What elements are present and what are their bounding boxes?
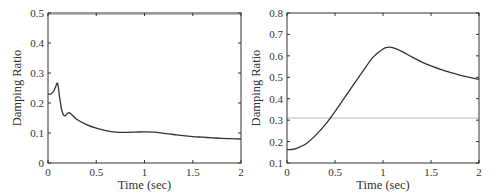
y-axis-label: Damping Ratio: [249, 50, 263, 127]
x-tick-label: 1: [380, 166, 386, 178]
x-tick-label: 0: [45, 166, 51, 178]
chart-right: 00.511.520.10.20.30.40.50.60.70.8Time (s…: [249, 7, 482, 192]
y-tick-label: 0.5: [269, 71, 283, 83]
x-tick-label: 1.5: [424, 166, 438, 178]
x-tick-label: 0.5: [328, 166, 342, 178]
y-tick-label: 0.1: [30, 127, 44, 139]
y-tick-label: 0: [39, 157, 45, 169]
y-tick-label: 0.4: [269, 93, 283, 105]
x-tick-label: 2: [476, 166, 482, 178]
x-tick-label: 2: [238, 166, 244, 178]
y-tick-label: 0.5: [30, 7, 44, 19]
x-tick-label: 1.5: [186, 166, 200, 178]
y-tick-label: 0.2: [269, 136, 283, 148]
x-axis-label: Time (sec): [356, 178, 409, 192]
y-tick-label: 0.4: [30, 37, 44, 49]
y-axis-label: Damping Ratio: [10, 50, 24, 127]
chart-left: 00.511.5200.10.20.30.40.5Time (sec)Dampi…: [10, 7, 244, 192]
y-tick-label: 0.6: [269, 50, 283, 62]
x-tick-label: 0.5: [89, 166, 103, 178]
y-tick-label: 0.8: [269, 7, 283, 19]
data-line: [48, 83, 241, 139]
data-line: [287, 47, 479, 149]
plot-frame: [287, 13, 479, 163]
y-tick-label: 0.1: [269, 157, 283, 169]
x-axis-label: Time (sec): [118, 178, 171, 192]
y-tick-label: 0.2: [30, 97, 44, 109]
y-tick-label: 0.3: [269, 114, 283, 126]
y-tick-label: 0.7: [269, 28, 283, 40]
chart-canvas: 00.511.5200.10.20.30.40.5Time (sec)Dampi…: [0, 0, 499, 195]
x-tick-label: 1: [142, 166, 148, 178]
y-tick-label: 0.3: [30, 67, 44, 79]
x-tick-label: 0: [284, 166, 290, 178]
plot-frame: [48, 13, 241, 163]
